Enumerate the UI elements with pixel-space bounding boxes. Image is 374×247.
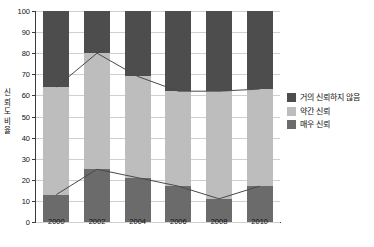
y-tick-label: 30 xyxy=(22,154,30,163)
x-tick-label: 2010 xyxy=(251,217,268,226)
y-tick-label: 50 xyxy=(22,112,30,121)
gridline xyxy=(36,222,280,223)
trend-line xyxy=(56,169,259,199)
y-axis-title-char: 도 xyxy=(1,107,13,117)
legend-item-strong-trust[interactable]: 매우 신뢰 xyxy=(287,120,360,129)
trend-line xyxy=(56,53,259,91)
y-tick-label: 100 xyxy=(17,7,30,16)
y-tick-label: 70 xyxy=(22,70,30,79)
legend-label: 매우 신뢰 xyxy=(300,120,330,129)
y-tick-label: 20 xyxy=(22,175,30,184)
y-tick-label: 80 xyxy=(22,49,30,58)
y-tick-label: 90 xyxy=(22,28,30,37)
y-tick-mark xyxy=(32,222,36,223)
x-tick-label: 2006 xyxy=(170,217,187,226)
plot-area: 0102030405060708090100 xyxy=(36,11,280,222)
y-axis-title: 신 뢰 도 비 율 xyxy=(1,88,13,136)
y-axis-title-char: 율 xyxy=(1,126,13,136)
y-tick-label: 0 xyxy=(26,218,30,227)
legend-swatch-icon xyxy=(287,120,296,129)
y-axis-title-char: 신 xyxy=(1,88,13,98)
legend-swatch-icon xyxy=(287,107,296,116)
legend-label: 거의 신뢰하지 않음 xyxy=(300,93,360,102)
chart-legend: 거의 신뢰하지 않음 약간 신뢰 매우 신뢰 xyxy=(287,93,360,129)
x-tick-label: 2002 xyxy=(89,217,106,226)
y-axis-title-char: 비 xyxy=(1,117,13,127)
y-tick-label: 40 xyxy=(22,133,30,142)
x-tick-label: 2000 xyxy=(48,217,65,226)
x-tick-label: 2008 xyxy=(211,217,228,226)
legend-label: 약간 신뢰 xyxy=(300,107,330,116)
stacked-bar-chart: 신 뢰 도 비 율 0102030405060708090100 2000200… xyxy=(0,0,374,247)
x-tick-label: 2004 xyxy=(129,217,146,226)
legend-swatch-icon xyxy=(287,93,296,102)
trend-lines-layer xyxy=(36,11,280,222)
legend-item-distrust[interactable]: 거의 신뢰하지 않음 xyxy=(287,93,360,102)
y-axis-title-char: 뢰 xyxy=(1,98,13,108)
legend-item-somewhat-trust[interactable]: 약간 신뢰 xyxy=(287,107,360,116)
y-tick-label: 60 xyxy=(22,91,30,100)
y-tick-label: 10 xyxy=(22,196,30,205)
